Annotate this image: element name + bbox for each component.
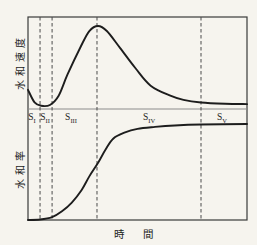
- stage-subscript: II: [45, 116, 49, 123]
- stage-label-s5: SV: [217, 111, 227, 127]
- x-axis-label-time: 時 間: [28, 226, 247, 241]
- stage-label-s1: SI: [28, 111, 35, 127]
- hydration-degree-curve: [28, 124, 247, 220]
- hydration-rate-curve: [28, 26, 247, 106]
- stage-label-s2: SII: [40, 111, 50, 127]
- plot-frame: [28, 17, 247, 220]
- hydration-stages-figure: 水和速度 水和率 SI SII SIII SIV SV 時 間: [0, 0, 257, 245]
- stage-subscript: IV: [148, 116, 155, 123]
- stage-label-s3: SIII: [65, 111, 77, 127]
- stage-subscript: V: [222, 116, 227, 123]
- y-axis-label-hydration-rate: 水和速度: [12, 34, 27, 90]
- y-axis-label-hydration-degree: 水和率: [12, 147, 27, 189]
- stage-subscript: III: [70, 116, 77, 123]
- stage-subscript: I: [34, 116, 36, 123]
- stage-label-s4: SIV: [143, 111, 155, 127]
